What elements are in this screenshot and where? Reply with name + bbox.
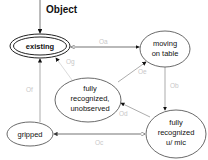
state-unobserved-label-line1: fully [83, 84, 97, 93]
state-fully-recognized-unobserved: fully recognized, unobserved [55, 78, 121, 122]
state-diagram: Oa Ob Oc Od Oe Of Og existing moving on … [0, 0, 208, 160]
edge-label-og: Og [66, 58, 75, 66]
state-mic-label-line1: fully [169, 118, 183, 127]
edge-label-oe: Oe [138, 68, 147, 75]
state-moving-on-table: moving on table [140, 31, 190, 67]
state-fully-recognized-mic: fully recognized u/ mic [146, 110, 206, 158]
state-moving-label-line2: on table [152, 49, 179, 58]
edge-label-od: Od [119, 110, 128, 117]
state-mic-label-line2: recognized [158, 128, 195, 137]
state-unobserved-label-line3: unobserved [70, 104, 109, 113]
edge-label-oa: Oa [99, 38, 108, 45]
edge-label-oc: Oc [95, 139, 104, 146]
edge-label-of: Of [26, 86, 33, 93]
edge-label-ob: Ob [170, 82, 179, 89]
state-existing-label: existing [26, 42, 55, 51]
state-gripped-label: gripped [17, 130, 42, 139]
state-unobserved-label-line2: recognized, [71, 94, 110, 103]
state-mic-label-line3: u/ mic [166, 138, 186, 147]
state-existing: existing [10, 34, 70, 58]
state-gripped: gripped [7, 122, 53, 146]
state-moving-label-line1: moving [153, 39, 177, 48]
